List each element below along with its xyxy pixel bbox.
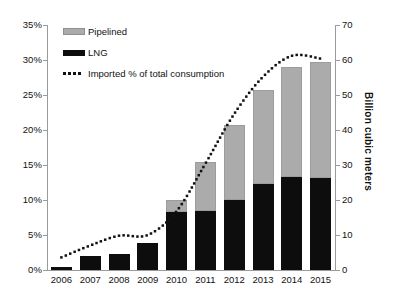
bar-group (310, 25, 331, 270)
bar-segment-lng (166, 212, 187, 270)
legend-item-imported-percent: Imported % of total consumption (63, 63, 224, 84)
bar-segment-lng (137, 243, 158, 270)
y-axis-right-tick (336, 130, 340, 131)
x-axis-tick-label: 2012 (220, 274, 249, 285)
y-axis-right-tick (336, 60, 340, 61)
y-axis-right-tick (336, 25, 340, 26)
x-axis-tick-label: 2011 (191, 274, 220, 285)
bar-segment-lng (109, 254, 130, 270)
y-axis-left-tick (43, 270, 47, 271)
x-axis-tick-label: 2010 (162, 274, 191, 285)
legend-label-lng: LNG (88, 47, 108, 58)
y-axis-right-tick (336, 235, 340, 236)
y-axis-right-tick (336, 270, 340, 271)
x-axis-tick-label: 2006 (47, 274, 76, 285)
bar-segment-lng (310, 178, 331, 270)
x-axis-tick-label: 2008 (105, 274, 134, 285)
bar-segment-pipelined (253, 90, 274, 185)
legend-item-pipelined: Pipelined (63, 21, 224, 42)
y-axis-right-tick (336, 165, 340, 166)
bar-segment-pipelined (224, 125, 245, 200)
y-axis-right-line (335, 25, 336, 270)
y-axis-right-tick-label: 40 (342, 124, 353, 135)
legend-swatch-lng (63, 50, 85, 56)
bar-segment-pipelined (310, 62, 331, 178)
y-axis-right-tick (336, 200, 340, 201)
legend-swatch-pipelined (63, 28, 85, 35)
x-axis-line (47, 270, 336, 271)
bar-segment-pipelined (281, 67, 302, 177)
legend-swatch-dotted-line (63, 71, 85, 77)
bar-group (281, 25, 302, 270)
bar-segment-pipelined (195, 162, 216, 211)
bar-segment-lng (195, 211, 216, 271)
legend-label-pipelined: Pipelined (88, 26, 127, 37)
bar-segment-lng (51, 267, 72, 271)
y-axis-right-title: Billion cubic meters (363, 92, 374, 191)
y-axis-right-tick-label: 20 (342, 194, 353, 205)
y-axis-left-tick-label: 20% (23, 124, 42, 135)
bar-segment-lng (281, 177, 302, 270)
x-axis-tick-label: 2007 (76, 274, 105, 285)
y-axis-left-tick-label: 25% (23, 89, 42, 100)
y-axis-left-tick-label: 5% (28, 229, 42, 240)
y-axis-right-tick-label: 60 (342, 54, 353, 65)
bar-group (224, 25, 245, 270)
bar-segment-lng (224, 200, 245, 270)
x-axis-tick-label: 2015 (306, 274, 335, 285)
x-axis-tick-label: 2009 (133, 274, 162, 285)
y-axis-left-tick-label: 0% (28, 264, 42, 275)
y-axis-right-tick-label: 30 (342, 159, 353, 170)
legend-label-imported-percent: Imported % of total consumption (88, 68, 224, 79)
y-axis-left-tick-label: 15% (23, 159, 42, 170)
legend-item-lng: LNG (63, 42, 224, 63)
bar-segment-lng (80, 256, 101, 270)
y-axis-left-tick-label: 35% (23, 19, 42, 30)
x-axis-tick-label: 2014 (277, 274, 306, 285)
bar-group (253, 25, 274, 270)
chart-legend: Pipelined LNG Imported % of total consum… (63, 21, 224, 84)
chart-container: 0%5%10%15%20%25%30%35% 010203040506070 2… (0, 0, 398, 306)
y-axis-right-tick-label: 10 (342, 229, 353, 240)
y-axis-left-tick-label: 10% (23, 194, 42, 205)
y-axis-right-tick-label: 0 (342, 264, 347, 275)
y-axis-right-tick-label: 70 (342, 19, 353, 30)
y-axis-left-tick-label: 30% (23, 54, 42, 65)
bar-segment-pipelined (166, 200, 187, 212)
y-axis-right-tick (336, 95, 340, 96)
x-axis-tick-label: 2013 (249, 274, 278, 285)
bar-segment-lng (253, 184, 274, 270)
y-axis-right-tick-label: 50 (342, 89, 353, 100)
